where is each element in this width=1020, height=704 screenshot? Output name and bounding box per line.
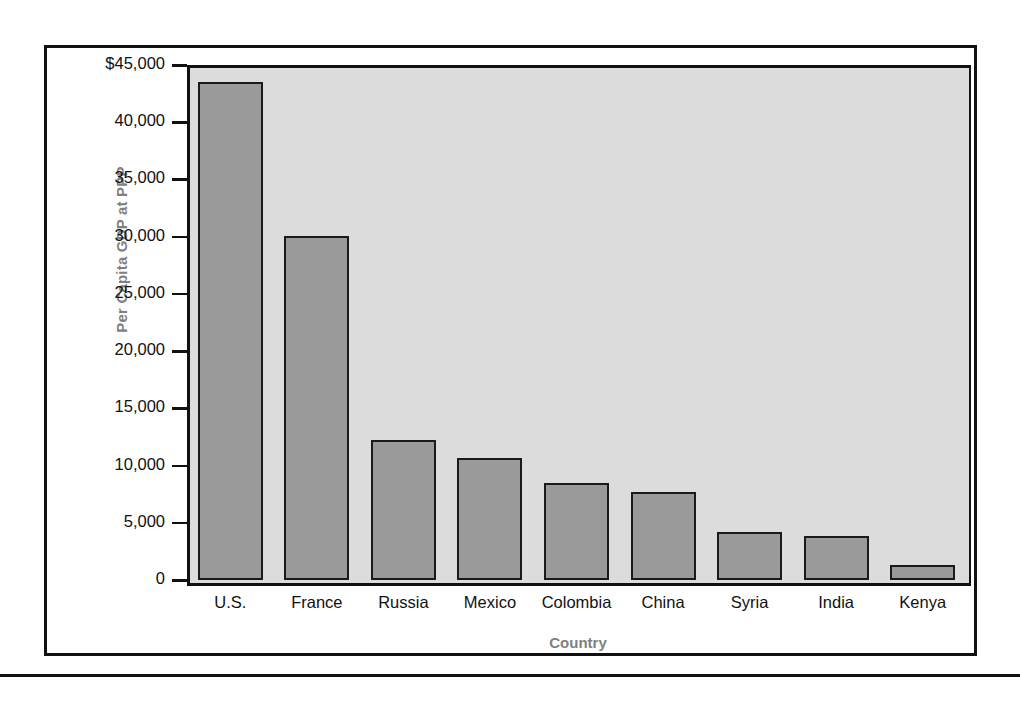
y-axis-tick-label: 10,000 bbox=[115, 455, 165, 474]
bar bbox=[631, 492, 696, 580]
bar bbox=[371, 440, 436, 580]
y-axis-tick-label: 30,000 bbox=[115, 226, 165, 245]
x-axis-tick-label: Syria bbox=[706, 593, 793, 612]
bar bbox=[717, 532, 782, 580]
x-axis-tick-label: U.S. bbox=[187, 593, 274, 612]
y-axis-tick-mark bbox=[172, 465, 187, 468]
y-axis-tick-mark bbox=[172, 579, 187, 582]
bar bbox=[198, 82, 263, 580]
y-axis-tick-mark bbox=[172, 178, 187, 181]
y-axis-tick-mark bbox=[172, 236, 187, 239]
horizontal-rule bbox=[0, 674, 1020, 677]
x-axis-tick-label: Mexico bbox=[447, 593, 534, 612]
x-axis-tick-label: Kenya bbox=[879, 593, 966, 612]
bar bbox=[457, 458, 522, 580]
x-axis-tick-label: France bbox=[274, 593, 361, 612]
y-axis-tick-mark bbox=[172, 350, 187, 353]
bar bbox=[804, 536, 869, 580]
y-axis-tick-label: 20,000 bbox=[115, 340, 165, 359]
y-axis-tick-label: 15,000 bbox=[115, 397, 165, 416]
y-axis-tick-label: 35,000 bbox=[115, 168, 165, 187]
y-axis-tick-mark bbox=[172, 293, 187, 296]
y-axis-tick-label: 25,000 bbox=[115, 283, 165, 302]
y-axis-tick-label: 0 bbox=[156, 569, 165, 588]
y-axis-tick-mark bbox=[172, 64, 187, 67]
y-axis-tick-mark bbox=[172, 121, 187, 124]
x-axis-tick-label: China bbox=[620, 593, 707, 612]
bar bbox=[544, 483, 609, 580]
x-axis-tick-label: India bbox=[793, 593, 880, 612]
y-axis-tick-label: $45,000 bbox=[105, 54, 165, 73]
figure-frame: Per Capita GDP at PPP Country $45,00040,… bbox=[44, 45, 977, 656]
y-axis-tick-label: 40,000 bbox=[115, 111, 165, 130]
y-axis-tick-mark bbox=[172, 407, 187, 410]
bar bbox=[890, 565, 955, 580]
bar bbox=[284, 236, 349, 580]
x-axis-title: Country bbox=[187, 634, 969, 651]
y-axis-tick-mark bbox=[172, 522, 187, 525]
x-axis-tick-label: Colombia bbox=[533, 593, 620, 612]
y-axis-tick-label: 5,000 bbox=[124, 512, 165, 531]
x-axis-tick-label: Russia bbox=[360, 593, 447, 612]
